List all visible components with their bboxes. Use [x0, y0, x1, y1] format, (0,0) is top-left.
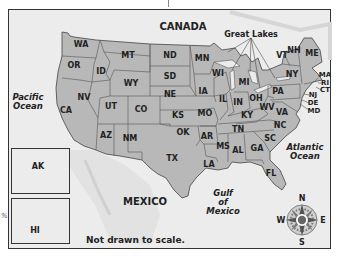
- state-label-wv: WV: [259, 104, 274, 112]
- state-label-mi: MI: [239, 79, 250, 87]
- edge-mark: %: [1, 212, 8, 220]
- state-label-vt: VT: [276, 52, 288, 60]
- alaska-inset: [11, 148, 70, 194]
- state-label-co: CO: [135, 106, 148, 114]
- compass-west-label: W: [277, 216, 286, 225]
- state-label-de: DE: [308, 100, 319, 107]
- state-label-ms: MS: [216, 143, 230, 151]
- state-label-tx: TX: [166, 155, 178, 163]
- inset-label-hi: HI: [30, 227, 40, 235]
- state-label-wi: WI: [212, 70, 224, 78]
- inset-label-ak: AK: [32, 163, 44, 171]
- state-label-sd: SD: [164, 73, 176, 81]
- scale-note: Not drawn to scale.: [86, 235, 185, 245]
- state-label-pa: PA: [272, 88, 283, 96]
- water-label-atlantic-ocean: Atlantic Ocean: [287, 143, 324, 161]
- state-label-wa: WA: [74, 41, 89, 49]
- state-label-or: OR: [68, 62, 81, 70]
- state-label-nj: NJ: [309, 92, 317, 99]
- lake-michigan: [230, 70, 235, 90]
- state-label-wy: WY: [124, 80, 139, 88]
- state-label-ky: KY: [241, 112, 253, 120]
- state-label-me: ME: [305, 50, 318, 58]
- state-label-mo: MO: [198, 110, 213, 118]
- region-label-canada: CANADA: [159, 21, 206, 32]
- state-label-va: VA: [276, 109, 288, 117]
- state-label-ne: NE: [164, 91, 176, 99]
- compass-east-label: E: [320, 216, 325, 225]
- state-label-ar: AR: [201, 133, 213, 141]
- state-label-ok: OK: [177, 129, 190, 137]
- water-label-pacific-ocean: Pacific Ocean: [12, 93, 43, 111]
- state-label-in: IN: [233, 99, 243, 107]
- state-label-ct: CT: [320, 87, 330, 94]
- compass-rose: [286, 204, 318, 236]
- state-label-tn: TN: [232, 126, 244, 134]
- state-label-mt: MT: [121, 52, 134, 60]
- state-label-nd: ND: [163, 52, 176, 60]
- water-label-gulf-of-mexico: Gulf of Mexico: [206, 189, 240, 216]
- state-label-id: ID: [96, 68, 106, 76]
- state-label-nc: NC: [274, 122, 287, 130]
- state-label-nv: NV: [78, 94, 91, 102]
- state-label-sc: SC: [264, 135, 276, 143]
- state-label-ca: CA: [60, 107, 72, 115]
- state-label-nm: NM: [123, 135, 138, 143]
- state-label-oh: OH: [249, 95, 263, 103]
- state-label-il: IL: [219, 96, 227, 104]
- state-label-az: AZ: [100, 132, 112, 140]
- state-label-fl: FL: [266, 170, 277, 178]
- hawaii-inset: [11, 198, 70, 244]
- state-label-mn: MN: [195, 55, 210, 63]
- region-label-mexico: MEXICO: [123, 196, 167, 207]
- state-label-ma: MA: [319, 72, 331, 79]
- compass-north-label: N: [299, 194, 306, 203]
- state-label-al: AL: [232, 147, 243, 155]
- top-tick-mark: [168, 0, 169, 7]
- state-label-ut: UT: [105, 103, 117, 111]
- state-label-la: LA: [203, 161, 214, 169]
- state-label-ga: GA: [251, 145, 264, 153]
- state-label-md: MD: [308, 108, 321, 115]
- state-label-ia: IA: [198, 88, 207, 96]
- state-label-ny: NY: [286, 71, 299, 79]
- state-label-ks: KS: [172, 112, 184, 120]
- state-label-nh: NH: [287, 47, 300, 55]
- compass-south-label: S: [299, 238, 305, 247]
- great-lakes-callout-label: Great Lakes: [224, 30, 278, 39]
